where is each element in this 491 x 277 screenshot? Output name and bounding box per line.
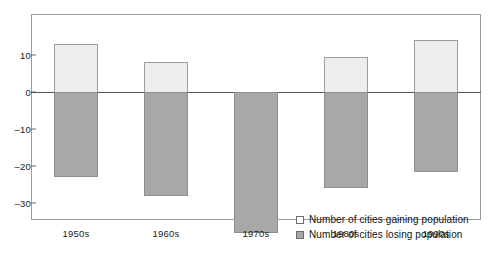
bar-gaining [54, 44, 98, 93]
legend-item-losing: Number of cities losing population [296, 227, 469, 242]
y-tick-label: –30 [15, 198, 31, 209]
x-tick-label: 1950s [36, 228, 116, 239]
x-tick-label: 1970s [216, 228, 296, 239]
bar-gaining [144, 62, 188, 93]
legend-item-gaining: Number of cities gaining population [296, 212, 469, 227]
x-tick-label: 1960s [126, 228, 206, 239]
bar-gaining [414, 40, 458, 93]
legend: Number of cities gaining population Numb… [296, 212, 469, 242]
bar-chart: 100–10–20–30 1950s1960s1970s1980s1990s N… [0, 0, 491, 277]
legend-swatch-losing-icon [296, 231, 304, 239]
legend-swatch-gaining-icon [296, 216, 304, 224]
bar-gaining [324, 57, 368, 93]
y-tick-label: –20 [15, 161, 31, 172]
y-tick-mark [31, 203, 36, 204]
y-axis: 100–10–20–30 [0, 0, 31, 277]
y-tick-label: 10 [20, 50, 31, 61]
legend-label-gaining: Number of cities gaining population [309, 214, 469, 225]
y-tick-mark [31, 129, 36, 130]
bar-losing [144, 92, 188, 196]
legend-label-losing: Number of cities losing population [309, 229, 462, 240]
y-tick-mark [31, 55, 36, 56]
y-tick-label: –10 [15, 124, 31, 135]
bar-losing [54, 92, 98, 177]
bar-losing [414, 92, 458, 172]
bar-losing [324, 92, 368, 188]
y-tick-mark [31, 166, 36, 167]
bar-losing [234, 92, 278, 233]
